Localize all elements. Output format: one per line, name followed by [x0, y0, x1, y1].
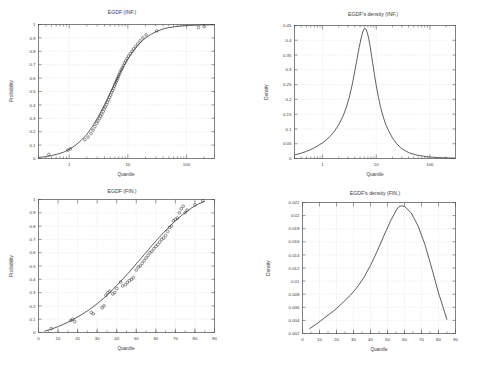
data-point [139, 39, 142, 42]
data-point [87, 136, 90, 139]
y-tick-label: 0.7 [29, 237, 36, 242]
y-tick-label: 0.2 [29, 129, 36, 134]
x-tick-label: 0 [37, 336, 40, 341]
data-point [132, 276, 135, 279]
x-tick-label: 60 [153, 336, 158, 341]
data-point [141, 37, 144, 40]
x-tick-label: 0 [301, 337, 304, 342]
gridlines [39, 25, 215, 159]
y-tick-label: 0.4 [29, 103, 36, 108]
data-point [97, 120, 100, 123]
data-points [50, 199, 204, 329]
panel-egdf-fin: EGDF (FIN.) 00.10.20.30.40.50.60.70.80.9… [0, 180, 240, 370]
data-point [141, 262, 144, 265]
y-tick-label: 0 [33, 330, 36, 335]
data-point [166, 230, 169, 233]
x-tick-label: 40 [114, 336, 119, 341]
y-tick-label: 0.02 [291, 213, 300, 218]
x-tick-label: 1 [321, 162, 324, 167]
x-tick-label: 50 [385, 337, 390, 342]
y-tick-label: 0.1 [29, 317, 36, 322]
data-point [94, 125, 97, 128]
data-point [143, 259, 146, 262]
y-tick-label: 0.018 [289, 226, 301, 231]
x-tick-label: 1 [68, 162, 71, 167]
plot-frame [295, 26, 456, 159]
gridlines [39, 200, 215, 333]
y-tick-label: 0.3 [29, 290, 36, 295]
y-axis-label: Density [264, 84, 269, 100]
x-tick-label: 70 [419, 337, 424, 342]
gridlines [303, 203, 456, 334]
y-tick-label: 0.6 [29, 250, 36, 255]
x-tick-labels: 110100 [68, 162, 191, 167]
y-tick-label: 0.3 [285, 67, 292, 72]
data-point [145, 34, 148, 37]
panel-egdf-inf: EGDF (INF.) 00.10.20.30.40.50.60.70.80.9… [0, 0, 240, 188]
y-tick-label: 0 [33, 156, 36, 161]
data-point [111, 293, 114, 296]
y-axis-label: Probability [9, 80, 14, 102]
panel-title: EGDF (FIN.) [107, 188, 136, 194]
y-tick-label: 0.1 [29, 143, 36, 148]
x-tick-labels: 0102030405060708090 [301, 337, 458, 342]
y-tick-label: 0.006 [289, 305, 301, 310]
axis-ticks [295, 26, 456, 159]
data-point [147, 254, 150, 257]
x-tick-label: 50 [134, 336, 139, 341]
data-point [172, 219, 175, 222]
y-tick-label: 0.05 [283, 141, 292, 146]
data-point [164, 234, 167, 237]
y-tick-label: 0.45 [283, 23, 292, 28]
x-tick-label: 60 [402, 337, 407, 342]
x-tick-label: 100 [426, 162, 434, 167]
y-tick-label: 0.25 [283, 82, 292, 87]
x-tick-labels: 0102030405060708090 [37, 336, 217, 341]
x-tick-label: 10 [374, 162, 379, 167]
x-tick-label: 90 [212, 336, 217, 341]
y-tick-label: 0.1 [285, 127, 292, 132]
data-point [92, 129, 95, 132]
y-tick-label: 0.5 [29, 264, 36, 269]
data-point [153, 247, 156, 250]
y-tick-labels: 00.10.20.30.40.50.60.70.80.91 [29, 197, 36, 335]
x-tick-label: 10 [125, 162, 130, 167]
y-tick-label: 0.01 [291, 279, 300, 284]
y-tick-label: 0.002 [289, 331, 301, 336]
density-curve [295, 28, 456, 158]
x-tick-label: 20 [75, 336, 80, 341]
x-tick-label: 10 [317, 337, 322, 342]
data-point [180, 207, 183, 210]
x-tick-label: 70 [173, 336, 178, 341]
panel-egdf-density-inf: EGDF's density (INF.) 00.050.10.150.20.2… [248, 0, 477, 188]
y-tick-label: 1 [33, 197, 36, 202]
y-tick-label: 0.7 [29, 62, 36, 67]
y-tick-label: 0.3 [29, 116, 36, 121]
panel-title: EGDF (INF.) [108, 9, 137, 15]
x-tick-label: 80 [436, 337, 441, 342]
data-points [47, 25, 205, 156]
x-tick-label: 80 [192, 336, 197, 341]
y-tick-label: 0.15 [283, 112, 292, 117]
x-tick-label: 30 [95, 336, 100, 341]
data-point [90, 311, 93, 314]
y-axis-label: Probability [9, 255, 14, 277]
x-tick-label: 100 [183, 162, 191, 167]
panel-egdf-density-fin: EGDF's density (FIN.) 0.0020.0040.0060.0… [248, 180, 477, 370]
data-point [90, 132, 93, 135]
data-point [151, 250, 154, 253]
data-point [158, 241, 161, 244]
data-point [83, 138, 86, 141]
y-tick-labels: 00.050.10.150.20.250.30.350.40.45 [283, 23, 292, 161]
x-axis-label: Quantile [117, 346, 135, 351]
y-tick-label: 0.008 [289, 292, 301, 297]
y-tick-label: 0.022 [289, 200, 301, 205]
x-tick-label: 10 [56, 336, 61, 341]
gridlines [295, 26, 456, 159]
data-point [136, 42, 139, 45]
y-tick-label: 0.4 [285, 38, 292, 43]
y-tick-label: 0.5 [29, 89, 36, 94]
data-point [145, 257, 148, 260]
y-tick-labels: 00.10.20.30.40.50.60.70.80.91 [29, 22, 36, 161]
x-axis-label: Quantile [370, 347, 388, 352]
